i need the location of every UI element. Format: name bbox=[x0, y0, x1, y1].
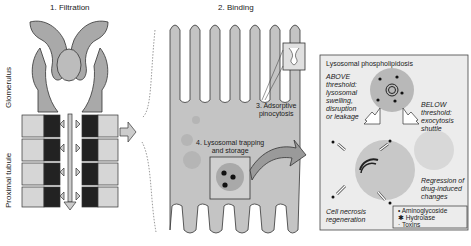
proximal-tubule-illustration bbox=[22, 114, 118, 210]
below-threshold-text: BELOWthreshold: exocytosisshuttle bbox=[421, 101, 454, 133]
glomerulus-label: Glomerulus bbox=[4, 67, 13, 108]
adsorptive-pinocytosis-label: 3. Adsorptive pinocytosis bbox=[256, 102, 296, 118]
proximal-tubule-label: Proximal tubule bbox=[4, 153, 13, 208]
lysosomal-trapping-label: 4. Lysosomal trapping and storage bbox=[196, 139, 264, 155]
above-threshold-text: ABOVEthreshold:lysosomal swelling,disrup… bbox=[326, 73, 359, 121]
legend-item-hydrolase: ✱ Hydrolase bbox=[398, 214, 447, 221]
phospholipidosis-title: Lysosomal phospholipidosis bbox=[326, 60, 413, 67]
legend-item-toxins: · Toxins bbox=[398, 221, 447, 228]
regression-text: Regression ofdrug-inducedchanges bbox=[421, 177, 464, 201]
legend-item-aminoglycoside: • Aminoglycoside bbox=[398, 207, 447, 214]
binding-title: 2. Binding bbox=[218, 3, 254, 12]
necrosis-text: Cell necrosisregeneration bbox=[326, 208, 366, 224]
filtration-title: 1. Filtration bbox=[50, 3, 90, 12]
flow-arrow bbox=[120, 122, 136, 142]
legend: • Aminoglycoside ✱ Hydrolase · Toxins bbox=[398, 207, 447, 228]
glomerulus-illustration bbox=[30, 21, 108, 112]
